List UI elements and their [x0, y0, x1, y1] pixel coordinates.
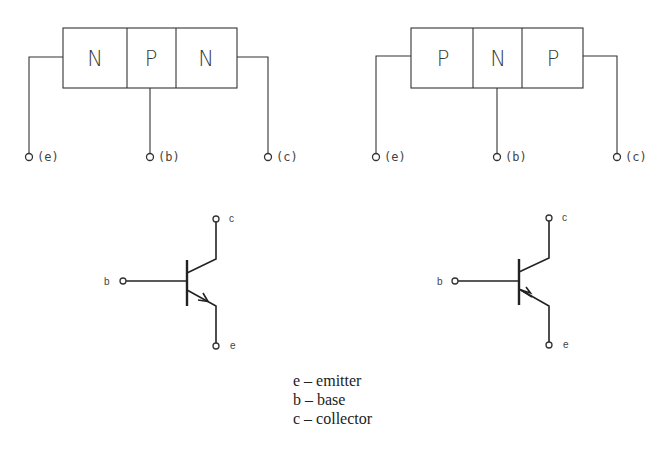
- legend-dash: –: [304, 410, 312, 427]
- legend-dash: –: [304, 372, 312, 389]
- pnp-collector-lead: [583, 56, 617, 153]
- pnp-transistor-symbol: b c e: [437, 212, 569, 350]
- pnp-base-label: (b): [505, 150, 527, 164]
- npn-collector-terminal: [265, 154, 272, 161]
- npn-symbol-emitter-label: e: [230, 340, 236, 351]
- npn-symbol-base-label: b: [104, 276, 110, 287]
- legend-key: e: [293, 372, 300, 389]
- pnp-emitter-wire: [519, 289, 549, 342]
- pnp-symbol-base-terminal: [452, 278, 458, 284]
- pnp-symbol-emitter-terminal: [546, 342, 552, 348]
- pnp-emitter-terminal: [373, 154, 380, 161]
- legend-key: c: [293, 410, 300, 427]
- npn-symbol-emitter-terminal: [213, 343, 219, 349]
- npn-transistor-symbol: b c e: [104, 213, 236, 351]
- pnp-region-emitter: P: [437, 47, 450, 71]
- legend-item-collector: c – collector: [293, 409, 372, 428]
- terminal-legend: e – emitter b – base c – collector: [293, 371, 372, 428]
- pnp-symbol-base-label: b: [437, 276, 443, 287]
- npn-symbol-collector-terminal: [213, 216, 219, 222]
- npn-base-terminal: [147, 154, 154, 161]
- legend-item-emitter: e – emitter: [293, 371, 372, 390]
- pnp-symbol-collector-terminal: [546, 215, 552, 221]
- npn-region-emitter: N: [87, 47, 103, 71]
- npn-emitter-lead: [29, 57, 63, 153]
- pnp-base-terminal: [494, 154, 501, 161]
- npn-collector-wire: [187, 222, 216, 273]
- pnp-region-collector: P: [547, 47, 560, 71]
- npn-emitter-terminal: [26, 154, 33, 161]
- npn-symbol-base-terminal: [120, 278, 126, 284]
- pnp-emitter-label: (e): [384, 150, 406, 164]
- pnp-region-base: N: [490, 47, 506, 71]
- npn-emitter-label: (e): [37, 150, 59, 164]
- legend-key: b: [293, 391, 301, 408]
- npn-base-label: (b): [158, 150, 180, 164]
- legend-meaning: collector: [316, 410, 372, 427]
- legend-meaning: emitter: [316, 372, 361, 389]
- legend-item-base: b – base: [293, 390, 372, 409]
- pnp-symbol-emitter-label: e: [563, 339, 569, 350]
- npn-collector-label: (c): [276, 150, 298, 164]
- pnp-collector-wire: [519, 221, 549, 272]
- pnp-block-diagram: P N P (e) (b) (c): [373, 28, 647, 164]
- npn-block-diagram: N P N (e) (b) (c): [26, 28, 298, 164]
- pnp-collector-label: (c): [625, 150, 647, 164]
- pnp-symbol-collector-label: c: [562, 212, 567, 223]
- pnp-collector-terminal: [614, 154, 621, 161]
- pnp-emitter-lead: [376, 56, 411, 153]
- npn-symbol-collector-label: c: [229, 213, 234, 224]
- legend-meaning: base: [317, 391, 345, 408]
- legend-dash: –: [305, 391, 313, 408]
- npn-region-base: P: [145, 47, 158, 71]
- npn-collector-lead: [237, 57, 268, 153]
- npn-emitter-wire: [187, 290, 216, 343]
- npn-region-collector: N: [198, 47, 214, 71]
